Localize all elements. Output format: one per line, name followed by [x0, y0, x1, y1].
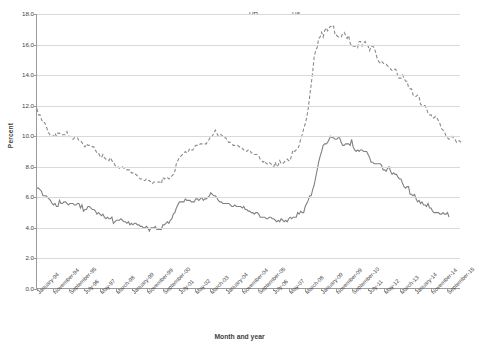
y-tick-label: 16.0: [8, 42, 34, 48]
gridline: [37, 197, 460, 198]
y-tick-mark: [34, 45, 37, 46]
gridline: [37, 75, 460, 76]
unemployment-line-chart: Percent 0.02.04.06.08.010.012.014.016.01…: [0, 0, 479, 351]
y-tick-mark: [34, 75, 37, 76]
y-tick-label: 0.0: [8, 286, 34, 292]
y-tick-mark: [34, 106, 37, 107]
y-tick-mark: [34, 136, 37, 137]
y-tick-label: 18.0: [8, 11, 34, 17]
y-tick-mark: [34, 197, 37, 198]
gridline: [37, 136, 460, 137]
plot-area: [36, 14, 460, 289]
y-tick-label: 12.0: [8, 103, 34, 109]
y-tick-label: 2.0: [8, 255, 34, 261]
y-tick-mark: [34, 14, 37, 15]
x-axis-title: Month and year: [0, 333, 479, 340]
y-axis-ticks: 0.02.04.06.08.010.012.014.016.018.0: [0, 0, 34, 351]
y-tick-label: 4.0: [8, 225, 34, 231]
gridline: [37, 14, 460, 15]
gridline: [37, 45, 460, 46]
y-tick-label: 10.0: [8, 133, 34, 139]
gridline: [37, 167, 460, 168]
y-tick-mark: [34, 167, 37, 168]
y-tick-label: 6.0: [8, 194, 34, 200]
y-tick-label: 14.0: [8, 72, 34, 78]
gridline: [37, 228, 460, 229]
y-tick-label: 8.0: [8, 164, 34, 170]
series-line-ur: [37, 136, 449, 231]
y-tick-mark: [34, 258, 37, 259]
gridline: [37, 106, 460, 107]
series-paths: [37, 14, 461, 289]
gridline: [37, 258, 460, 259]
y-tick-mark: [34, 228, 37, 229]
